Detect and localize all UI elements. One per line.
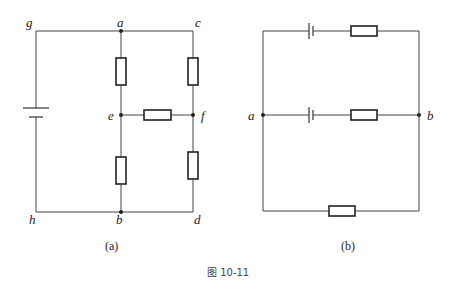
label-e: e — [108, 108, 114, 123]
label-c: c — [195, 15, 201, 30]
node-dot-a — [261, 113, 265, 117]
circuit-a: g a c e f h b d (a) — [23, 15, 207, 253]
label-h: h — [29, 212, 36, 227]
node-dot-f — [191, 113, 195, 117]
label-d: d — [194, 212, 201, 227]
label-b: b — [427, 108, 434, 123]
node-dot-b — [417, 113, 421, 117]
label-g: g — [26, 15, 33, 30]
caption-a: (a) — [105, 239, 118, 253]
resistor-e-b — [116, 157, 126, 184]
resistor-middle-b — [351, 110, 377, 120]
circuit-figure: g a c e f h b d (a) a b (b — [0, 0, 452, 284]
node-dot-e — [119, 113, 123, 117]
label-b: b — [116, 212, 123, 227]
resistor-c-f — [188, 58, 198, 85]
resistor-e-f — [144, 110, 171, 120]
label-f: f — [201, 108, 207, 123]
resistor-top-b — [351, 26, 377, 36]
label-a: a — [248, 108, 255, 123]
figure-caption: 图 10-11 — [207, 267, 249, 278]
circuit-b: a b (b) — [248, 23, 434, 253]
label-a: a — [117, 15, 124, 30]
resistor-f-d — [188, 152, 198, 179]
resistor-bottom-b — [329, 206, 355, 216]
resistor-a-e — [116, 58, 126, 85]
caption-b: (b) — [341, 239, 355, 253]
